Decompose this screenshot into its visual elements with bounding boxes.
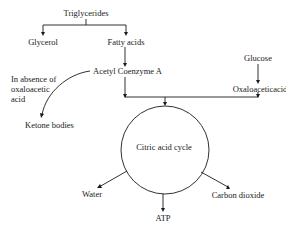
node-ketone-bodies: Ketone bodies [25, 121, 74, 130]
arrowhead-atp-icon [161, 208, 165, 212]
node-atp: ATP [155, 214, 170, 223]
arrowhead-ketone-icon [40, 113, 44, 118]
node-triglycerides: Triglycerides [63, 9, 108, 18]
node-water: Water [82, 190, 102, 199]
node-glucose: Glucose [244, 54, 272, 63]
arrow-cycle-to-water [99, 171, 127, 187]
arrowhead-fatty-acids-icon [124, 32, 128, 36]
arrowhead-co2-icon [226, 185, 230, 189]
node-fatty-acids: Fatty acids [107, 38, 144, 47]
node-glycerol: Glycerol [28, 38, 58, 47]
arrowhead-cycle-icon [163, 102, 167, 106]
arrow-cycle-to-co2 [201, 172, 228, 187]
node-citric-acid-cycle: Citric acid cycle [136, 143, 192, 152]
node-acetyl-coa: Acetyl Coenzyme A [93, 67, 162, 76]
node-oxaloacetic-acid: Oxaloaceticacid [233, 85, 286, 94]
condition-absence-note: In absence of oxaloacetic acid [11, 75, 57, 104]
node-carbon-dioxide: Carbon dioxide [212, 191, 265, 200]
arrowhead-glycerol-icon [41, 32, 45, 36]
